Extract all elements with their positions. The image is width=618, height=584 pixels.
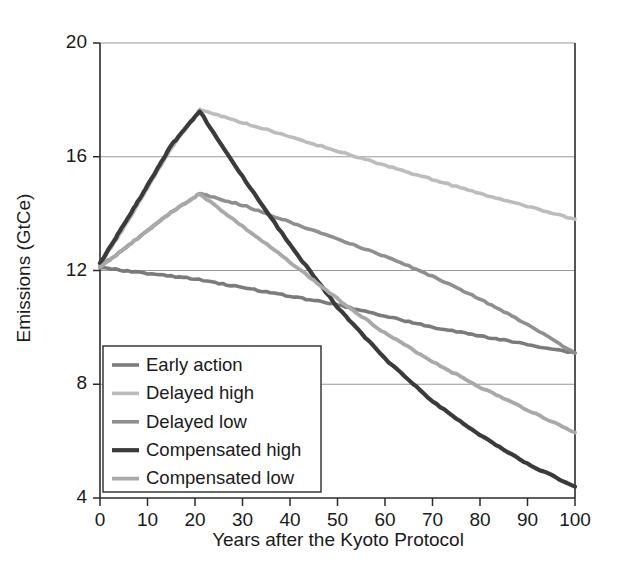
x-tick-label-90: 90 <box>517 509 538 530</box>
legend-label-early-action: Early action <box>146 354 243 375</box>
y-tick-label-20: 20 <box>66 31 87 52</box>
chart-legend: Early actionDelayed highDelayed lowCompe… <box>103 346 321 492</box>
y-tick-label-8: 8 <box>76 372 87 393</box>
series-line-delayed-low <box>100 194 575 353</box>
y-tick-label-16: 16 <box>66 145 87 166</box>
x-axis-title: Years after the Kyoto Protocol <box>212 529 464 550</box>
y-tick-label-4: 4 <box>76 486 87 507</box>
x-tick-label-60: 60 <box>374 509 395 530</box>
x-tick-label-80: 80 <box>469 509 490 530</box>
emissions-line-chart: 48121620 0102030405060708090100 Early ac… <box>0 0 618 584</box>
x-tick-label-30: 30 <box>232 509 253 530</box>
series-line-delayed-high <box>100 109 575 265</box>
figure: 48121620 0102030405060708090100 Early ac… <box>0 0 618 584</box>
legend-label-compensated-high: Compensated high <box>146 439 301 460</box>
x-tick-label-40: 40 <box>279 509 300 530</box>
x-tick-label-50: 50 <box>327 509 348 530</box>
x-tick-label-100: 100 <box>559 509 591 530</box>
legend-label-delayed-high: Delayed high <box>146 382 254 403</box>
x-tick-labels: 0102030405060708090100 <box>95 509 591 530</box>
x-tick-label-10: 10 <box>137 509 158 530</box>
y-tick-labels: 48121620 <box>66 31 88 507</box>
x-tick-label-20: 20 <box>184 509 205 530</box>
x-tick-label-0: 0 <box>95 509 106 530</box>
y-tick-label-12: 12 <box>66 259 87 280</box>
legend-label-delayed-low: Delayed low <box>146 411 247 432</box>
legend-label-compensated-low: Compensated low <box>146 467 295 488</box>
x-tick-label-70: 70 <box>422 509 443 530</box>
y-axis-title: Emissions (GtCe) <box>13 194 34 343</box>
